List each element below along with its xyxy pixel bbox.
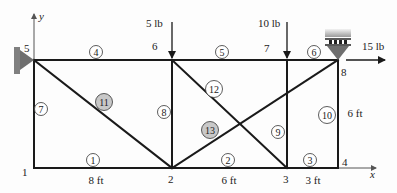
truss-diagram: yx12345678910111213123456788 ft6 ft3 ft6… (0, 0, 397, 193)
member-label-10: 10 (322, 110, 332, 121)
member-label-9: 9 (276, 127, 281, 138)
node-label-8: 8 (341, 66, 347, 78)
load-label-7: 10 lb (258, 17, 281, 29)
load-label-8: 15 lb (362, 40, 385, 52)
load-label-6: 5 lb (146, 17, 163, 29)
member-label-5: 5 (220, 47, 225, 58)
dimension-label: 3 ft (306, 174, 321, 186)
member-label-7: 7 (39, 104, 44, 115)
member-label-3: 3 (308, 155, 313, 166)
member-label-12: 12 (209, 84, 219, 95)
member-label-6: 6 (312, 47, 317, 58)
node-label-4: 4 (342, 156, 348, 168)
node-label-1: 1 (22, 166, 28, 178)
node-label-5: 5 (24, 42, 30, 54)
node-label-7: 7 (264, 42, 270, 54)
member-label-1: 1 (91, 155, 96, 166)
dimension-label: 6 ft (348, 107, 363, 119)
member-label-11: 11 (99, 97, 109, 108)
member-label-8: 8 (162, 107, 167, 118)
x-axis-label: x (369, 168, 375, 180)
node-label-6: 6 (152, 40, 158, 52)
member-12 (172, 60, 287, 168)
node-label-2: 2 (168, 173, 174, 185)
member-label-4: 4 (94, 47, 99, 58)
roller-support-icon (325, 29, 351, 60)
member-label-13: 13 (205, 125, 215, 136)
member-11 (34, 60, 172, 168)
truss-canvas: yx12345678910111213123456788 ft6 ft3 ft6… (0, 0, 397, 193)
dimension-label: 6 ft (222, 174, 237, 186)
node-label-3: 3 (283, 173, 289, 185)
y-axis-label: y (38, 10, 44, 22)
member-label-2: 2 (226, 155, 231, 166)
dimension-label: 8 ft (89, 174, 104, 186)
member-13 (172, 60, 338, 168)
